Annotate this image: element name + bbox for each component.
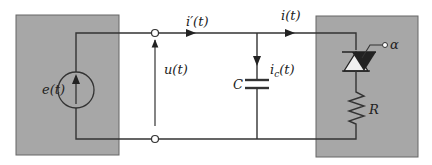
source-current-label: i′(t) — [186, 14, 208, 29]
source-current-arrow — [186, 29, 196, 37]
capacitor-label: C — [233, 77, 243, 92]
load-current-arrow — [285, 29, 295, 37]
source-block — [16, 15, 119, 155]
terminal-voltage-label: u(t) — [164, 62, 188, 77]
terminal-bottom — [152, 136, 159, 143]
load-current-label: i(t) — [281, 8, 301, 23]
capacitor-current-arrow — [253, 56, 261, 66]
capacitor-icon — [245, 33, 269, 139]
capacitor-current-label: ic(t) — [270, 62, 295, 79]
resistor-label: R — [368, 102, 379, 117]
load-block — [316, 16, 418, 157]
source-voltage-label: e(t) — [42, 82, 65, 97]
terminal-top — [152, 30, 159, 37]
gate-label: α — [390, 37, 399, 52]
circuit-diagram: e(t) u(t) i′(t) i(t) C ic(t) α R — [0, 0, 432, 165]
